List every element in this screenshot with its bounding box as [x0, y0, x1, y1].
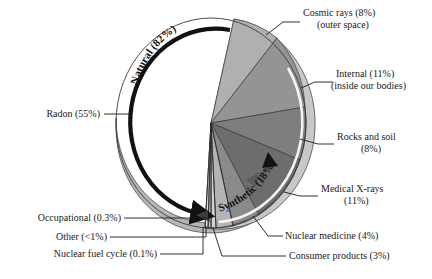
- leader-cosmic: [266, 22, 300, 35]
- label-other: Other (<1%): [56, 231, 107, 243]
- label-cosmic-rays-line1: Cosmic rays (8%): [303, 7, 375, 19]
- label-occupational: Occupational (0.3%): [38, 212, 121, 224]
- label-radon: Radon (55%): [46, 108, 100, 120]
- pie-chart-svg: Natural (82%) Synthetic (18%) Radon (55%…: [0, 0, 432, 279]
- label-medical-line2: (11%): [344, 195, 369, 207]
- label-nuclear-fuel-cycle: Nuclear fuel cycle (0.1%): [54, 248, 157, 260]
- label-internal-line2: (inside our bodies): [331, 80, 406, 92]
- label-internal-line1: Internal (11%): [336, 68, 394, 80]
- label-consumer-products: Consumer products (3%): [289, 250, 390, 262]
- label-medical-line1: Medical X-rays: [321, 183, 384, 194]
- label-rocks-line2: (8%): [361, 143, 381, 155]
- figure-canvas: Natural (82%) Synthetic (18%) Radon (55%…: [0, 0, 432, 279]
- group-label-natural: Natural (82%): [128, 22, 179, 86]
- label-nuclear-medicine: Nuclear medicine (4%): [285, 230, 378, 242]
- label-rocks-line1: Rocks and soil: [337, 131, 396, 142]
- label-cosmic-rays-line2: (outer space): [317, 19, 369, 31]
